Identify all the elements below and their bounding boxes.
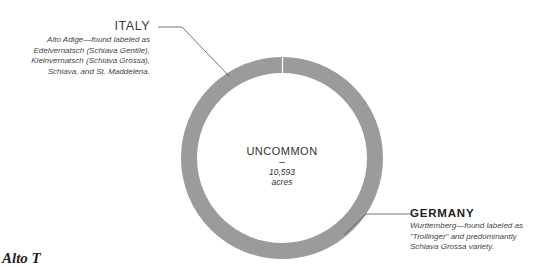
- germany-desc-line: Schiava Grossa variety.: [410, 242, 544, 253]
- italy-title: ITALY: [0, 19, 150, 33]
- germany-title: GERMANY: [410, 207, 544, 219]
- italy-desc-line: Alto Adige—found labeled as: [0, 35, 150, 46]
- cutoff-heading: Alto T: [2, 250, 41, 267]
- italy-desc-line: Schiava, and St. Maddelena.: [0, 67, 150, 78]
- center-unit: acres: [232, 177, 332, 187]
- italy-annotation: ITALY Alto Adige—found labeled as Edelve…: [0, 19, 150, 77]
- italy-description: Alto Adige—found labeled as Edelvernatsc…: [0, 35, 150, 77]
- center-value: 10,593: [232, 167, 332, 177]
- germany-desc-line: "Trollinger" and predominantly: [410, 232, 544, 243]
- italy-leader-line: [158, 27, 229, 76]
- italy-desc-line: Edelvernatsch (Schiava Gentile),: [0, 46, 150, 57]
- germany-description: Wurttemberg—found labeled as "Trollinger…: [410, 221, 544, 253]
- center-dash: –: [232, 157, 332, 167]
- germany-annotation: GERMANY Wurttemberg—found labeled as "Tr…: [410, 207, 544, 253]
- slice-divider-bottom: [255, 226, 259, 240]
- germany-desc-line: Wurttemberg—found labeled as: [410, 221, 544, 232]
- italy-desc-line: Kleinvernatsch (Schiava Grossa),: [0, 56, 150, 67]
- donut-center-label: UNCOMMON – 10,593 acres: [232, 145, 332, 187]
